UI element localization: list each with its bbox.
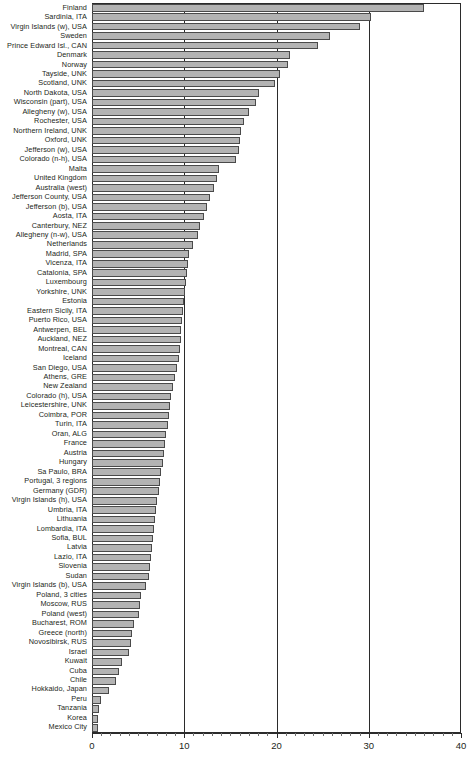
category-label-row: North Dakota, USA bbox=[0, 88, 91, 97]
axis-tick-minor bbox=[323, 733, 324, 736]
category-label: France bbox=[64, 439, 87, 447]
category-label-row: Sofia, BUL bbox=[0, 533, 91, 542]
category-label-row: Oran, ALG bbox=[0, 429, 91, 438]
bar bbox=[92, 231, 198, 239]
category-label: Netherlands bbox=[47, 240, 87, 248]
category-label-row: Poland, 3 cities bbox=[0, 590, 91, 599]
category-label-row: Jefferson (b), USA bbox=[0, 202, 91, 211]
bar bbox=[92, 525, 154, 533]
axis-tick-label: 10 bbox=[179, 740, 190, 751]
category-label: Jefferson County, USA bbox=[12, 193, 87, 201]
bar bbox=[92, 61, 288, 69]
axis-tick-minor bbox=[249, 733, 250, 736]
category-label: Estonia bbox=[62, 297, 87, 305]
category-label: Lithuania bbox=[57, 515, 87, 523]
bar bbox=[92, 326, 181, 334]
bar bbox=[92, 175, 217, 183]
bar bbox=[92, 288, 185, 296]
category-label-row: Eastern Sicily, ITA bbox=[0, 306, 91, 315]
category-label-row: Auckland, NEZ bbox=[0, 334, 91, 343]
category-label-row: Hokkaido, Japan bbox=[0, 685, 91, 694]
category-label: Lombardia, ITA bbox=[37, 525, 87, 533]
category-label: Prince Edward Isl., CAN bbox=[7, 42, 87, 50]
bar bbox=[92, 260, 188, 268]
category-label-row: United Kingdom bbox=[0, 173, 91, 182]
bar bbox=[92, 203, 207, 211]
category-label-row: Chile bbox=[0, 675, 91, 684]
gridline bbox=[277, 3, 278, 733]
axis-tick-minor bbox=[110, 733, 111, 736]
bar bbox=[92, 146, 239, 154]
bar bbox=[92, 516, 155, 524]
category-label-row: Sudan bbox=[0, 571, 91, 580]
value-axis: 010203040 bbox=[92, 733, 462, 769]
bar bbox=[92, 165, 219, 173]
category-label: San Diego, USA bbox=[33, 364, 87, 372]
category-label: Hungary bbox=[59, 458, 87, 466]
bar bbox=[92, 412, 169, 420]
axis-tick-minor bbox=[415, 733, 416, 736]
axis-tick-minor bbox=[443, 733, 444, 736]
category-label: Sofia, BUL bbox=[51, 534, 87, 542]
category-label: Sweden bbox=[60, 32, 87, 40]
category-label: Austria bbox=[64, 449, 87, 457]
bar bbox=[92, 620, 134, 628]
axis-tick-minor bbox=[341, 733, 342, 736]
category-label: Denmark bbox=[57, 51, 87, 59]
category-label: Malta bbox=[69, 165, 87, 173]
category-label-row: Iceland bbox=[0, 353, 91, 362]
axis-tick-minor bbox=[120, 733, 121, 736]
category-label: Puerto Rico, USA bbox=[29, 316, 87, 324]
category-label: Yorkshire, UNK bbox=[36, 288, 87, 296]
category-label: Bucharest, ROM bbox=[32, 619, 87, 627]
category-label-row: Australia (west) bbox=[0, 183, 91, 192]
axis-tick-minor bbox=[304, 733, 305, 736]
category-label: Coimbra, POR bbox=[39, 411, 87, 419]
category-label: Moscow, RUS bbox=[40, 600, 87, 608]
category-label-row: Lazio, ITA bbox=[0, 552, 91, 561]
axis-tick-minor bbox=[212, 733, 213, 736]
axis-tick-minor bbox=[147, 733, 148, 736]
category-label-row: Slovenia bbox=[0, 562, 91, 571]
bar bbox=[92, 506, 156, 514]
category-label-row: Scotland, UNK bbox=[0, 79, 91, 88]
axis-tick-minor bbox=[258, 733, 259, 736]
bar bbox=[92, 137, 240, 145]
axis-tick-major bbox=[184, 733, 185, 738]
category-label-row: Cuba bbox=[0, 666, 91, 675]
category-label-row: Sweden bbox=[0, 31, 91, 40]
axis-tick-label: 20 bbox=[271, 740, 282, 751]
category-label: Catalonia, SPA bbox=[37, 269, 87, 277]
category-label: Antwerpen, BEL bbox=[33, 326, 87, 334]
category-label-row: Canterbury, NEZ bbox=[0, 221, 91, 230]
category-label-row: Sardinia, ITA bbox=[0, 12, 91, 21]
bar bbox=[92, 184, 214, 192]
category-label: Vicenza, ITA bbox=[45, 259, 87, 267]
category-label: Iceland bbox=[63, 354, 87, 362]
category-label-row: Luxembourg bbox=[0, 278, 91, 287]
axis-tick-minor bbox=[230, 733, 231, 736]
axis-tick-minor bbox=[203, 733, 204, 736]
axis-tick-minor bbox=[378, 733, 379, 736]
category-label: Virgin Islands (b), USA bbox=[12, 581, 87, 589]
category-label: Montreal, CAN bbox=[38, 345, 87, 353]
category-label: Aosta, ITA bbox=[53, 212, 87, 220]
bar bbox=[92, 250, 189, 258]
category-label: Greece (north) bbox=[39, 629, 87, 637]
category-label: Auckland, NEZ bbox=[37, 335, 87, 343]
category-label: Sudan bbox=[66, 572, 87, 580]
category-label: Allegheny (n-w), USA bbox=[16, 231, 87, 239]
category-label: Eastern Sicily, ITA bbox=[27, 307, 87, 315]
axis-tick-minor bbox=[360, 733, 361, 736]
category-label-row: Allegheny (n-w), USA bbox=[0, 230, 91, 239]
bar bbox=[92, 118, 244, 126]
gridline bbox=[369, 3, 370, 733]
category-axis-labels: FinlandSardinia, ITAVirgin Islands (w), … bbox=[0, 0, 91, 735]
category-label: Colorado (h), USA bbox=[26, 392, 87, 400]
category-label-row: Turin, ITA bbox=[0, 420, 91, 429]
axis-tick-minor bbox=[221, 733, 222, 736]
category-label-row: Umbria, ITA bbox=[0, 505, 91, 514]
category-label-row: Virgin Islands (h), USA bbox=[0, 495, 91, 504]
bar bbox=[92, 99, 256, 107]
category-label-row: Peru bbox=[0, 694, 91, 703]
